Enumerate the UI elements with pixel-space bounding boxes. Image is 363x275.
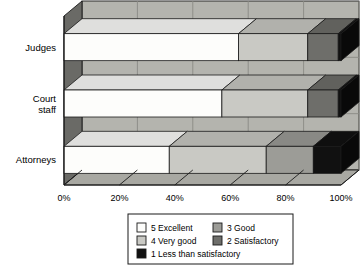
bar-court-staff [64, 75, 359, 117]
bar-segment-top-face [169, 131, 284, 146]
legend-label: 2 Satisfactory [227, 236, 279, 246]
bar-judges [64, 19, 359, 61]
bar-segment-front-face [64, 146, 169, 173]
bar-segment-front-face [266, 146, 313, 173]
bar-segment-front-face [338, 90, 341, 117]
bar-attorneys [64, 131, 359, 173]
x-axis-tick-label: 0% [57, 193, 70, 203]
bar-segment-top-face [64, 131, 187, 146]
x-axis-tick-label: 20% [110, 193, 128, 203]
bar-segment [64, 19, 257, 61]
bar-segment-front-face [313, 146, 341, 173]
category-label-line: Judges [25, 42, 56, 53]
legend-item: 3 Good [213, 223, 255, 233]
legend-label: 1 Less than satisfactory [151, 249, 241, 259]
stacked-bar-chart: 0%20%40%60%80%100%JudgesCourtstaffAttorn… [0, 0, 363, 275]
bar-segment-front-face [64, 90, 222, 117]
bar-segment-front-face [308, 34, 338, 61]
legend-swatch [213, 236, 222, 245]
legend-item: 5 Excellent [137, 223, 193, 233]
category-label: Attorneys [16, 154, 56, 165]
bar-segment-top-face [64, 75, 240, 90]
bar-segment [64, 75, 240, 117]
x-axis-tick-label: 80% [277, 193, 295, 203]
bar-segment [64, 131, 187, 173]
legend-item: 1 Less than satisfactory [137, 249, 241, 259]
legend-label: 3 Good [227, 223, 255, 233]
legend-group: 5 Excellent3 Good4 Very good2 Satisfacto… [128, 214, 293, 264]
bar-segment-front-face [338, 34, 341, 61]
legend-swatch [213, 223, 222, 232]
legend-label: 4 Very good [151, 236, 197, 246]
x-axis-tick-label: 60% [221, 193, 239, 203]
bar-segment-front-face [308, 90, 338, 117]
chart-container: 0%20%40%60%80%100%JudgesCourtstaffAttorn… [0, 0, 363, 275]
bar-segment-front-face [222, 90, 308, 117]
x-axis-tick-label: 100% [329, 193, 352, 203]
legend-swatch [137, 223, 146, 232]
bar-segment-front-face [239, 34, 308, 61]
bar-segment-top-face [64, 19, 257, 34]
category-label-line: staff [38, 104, 56, 115]
legend-swatch [137, 249, 146, 258]
legend-item: 4 Very good [137, 236, 197, 246]
category-label: Judges [25, 42, 56, 53]
x-axis-tick-label: 40% [166, 193, 184, 203]
bars-group [64, 19, 359, 174]
category-label: Courtstaff [33, 93, 57, 115]
legend-label: 5 Excellent [151, 223, 193, 233]
category-label-line: Attorneys [16, 154, 56, 165]
bar-segment-front-face [64, 34, 239, 61]
category-label-line: Court [33, 93, 57, 104]
bar-segment-front-face [169, 146, 266, 173]
legend-swatch [137, 236, 146, 245]
